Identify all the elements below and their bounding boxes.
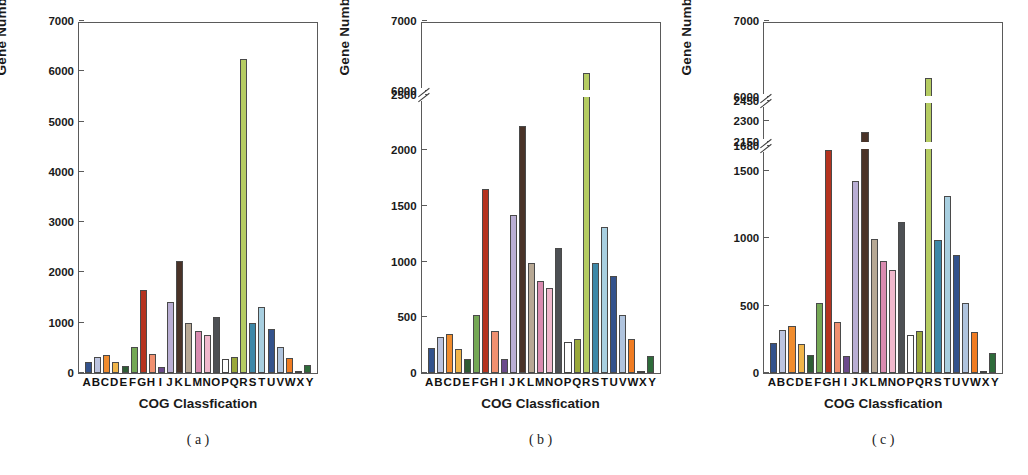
bar-y — [647, 356, 654, 373]
bar-v — [619, 315, 626, 373]
bar-g — [825, 150, 832, 373]
x-tick-label: M — [192, 376, 202, 388]
panel-caption-a: ( a ) — [78, 432, 318, 448]
bar-slot — [445, 23, 454, 373]
bar-slot — [979, 23, 988, 373]
bar-slot — [212, 23, 221, 373]
bar-slot — [573, 23, 582, 373]
x-tick-label: O — [211, 376, 220, 388]
bar-slot — [518, 23, 527, 373]
plot-area-b: 0500100015002000250060007000 — [421, 22, 661, 374]
x-tick-label: S — [248, 376, 257, 388]
bar-slot — [148, 23, 157, 373]
x-tick-label: O — [554, 376, 563, 388]
x-tick-label: C — [100, 376, 109, 388]
bar-slot — [536, 23, 545, 373]
bar-k — [176, 261, 183, 373]
bar-slot — [952, 23, 961, 373]
plot-area-a: 01000200030004000500060007000 — [78, 22, 318, 374]
y-tick-label: 1000 — [48, 317, 74, 329]
bar-q — [916, 331, 923, 373]
bar-slot — [203, 23, 212, 373]
bar-l — [871, 239, 878, 373]
x-tick-label: X — [296, 376, 305, 388]
bar-slot — [294, 23, 303, 373]
x-tick-label: J — [165, 376, 174, 388]
y-tick-mark — [79, 20, 84, 21]
y-tick-label: 5000 — [48, 116, 74, 128]
bar-slot — [248, 23, 257, 373]
bar-k — [861, 132, 868, 373]
bar-slot — [797, 23, 806, 373]
bar-v — [962, 303, 969, 373]
x-tick-label: M — [878, 376, 888, 388]
bar-slot — [139, 23, 148, 373]
bar-slot — [303, 23, 312, 373]
bar-slot — [970, 23, 979, 373]
bar-slot — [157, 23, 166, 373]
bar-slot — [84, 23, 93, 373]
x-tick-label: T — [600, 376, 609, 388]
x-tick-label: G — [137, 376, 146, 388]
bar-slot — [130, 23, 139, 373]
x-tick-label: L — [526, 376, 535, 388]
x-tick-label: V — [276, 376, 285, 388]
x-tick-label: N — [202, 376, 211, 388]
bar-m — [880, 261, 887, 373]
x-tick-label: F — [128, 376, 137, 388]
bar-slot — [563, 23, 572, 373]
bar-c — [103, 355, 110, 373]
bar-n — [889, 270, 896, 373]
x-tick-label: H — [832, 376, 841, 388]
x-axis-tick-labels-c: ABCDEFGHIJKLMNOPQRSTUVWXY — [763, 376, 1003, 388]
bar-slot — [888, 23, 897, 373]
x-tick-label: I — [498, 376, 507, 388]
x-tick-label: O — [896, 376, 905, 388]
bar-t — [944, 196, 951, 373]
x-tick-label: Y — [990, 376, 999, 388]
bar-break-gap — [924, 142, 933, 149]
bar-slot — [481, 23, 490, 373]
x-tick-label: D — [110, 376, 119, 388]
panel-c: Gene Number 0500100015001680215023002450… — [685, 0, 1028, 475]
x-tick-label: A — [767, 376, 776, 388]
bar-i — [843, 356, 850, 373]
bar-i — [158, 367, 165, 373]
x-tick-label: A — [425, 376, 434, 388]
bar-slot — [924, 23, 933, 373]
bar-g — [482, 189, 489, 373]
bar-slot — [906, 23, 915, 373]
y-tick-label: 2150 — [734, 136, 760, 148]
x-tick-label: J — [507, 376, 516, 388]
y-tick-label: 2300 — [734, 115, 760, 127]
bar-slot — [527, 23, 536, 373]
bar-g — [140, 290, 147, 373]
bar-o — [213, 317, 220, 373]
bar-slot — [111, 23, 120, 373]
y-tick-label: 6000 — [734, 91, 760, 103]
bar-v — [277, 347, 284, 373]
bar-slot — [184, 23, 193, 373]
bar-slot — [609, 23, 618, 373]
x-tick-label: H — [489, 376, 498, 388]
bar-m — [195, 331, 202, 373]
bar-b — [779, 330, 786, 373]
x-tick-label: K — [174, 376, 183, 388]
bar-slot — [915, 23, 924, 373]
bar-o — [555, 248, 562, 373]
x-tick-label: I — [841, 376, 850, 388]
y-tick-label: 1000 — [734, 232, 760, 244]
bar-slot — [815, 23, 824, 373]
bar-slot — [93, 23, 102, 373]
y-tick-label: 0 — [410, 367, 416, 379]
bar-e — [464, 359, 471, 373]
x-tick-label: D — [452, 376, 461, 388]
bar-b — [437, 337, 444, 373]
x-tick-label: X — [638, 376, 647, 388]
y-tick-label: 3000 — [48, 216, 74, 228]
bar-m — [537, 281, 544, 373]
bar-w — [971, 332, 978, 373]
bar-slot — [194, 23, 203, 373]
bar-slot — [230, 23, 239, 373]
x-tick-label: W — [285, 376, 296, 388]
